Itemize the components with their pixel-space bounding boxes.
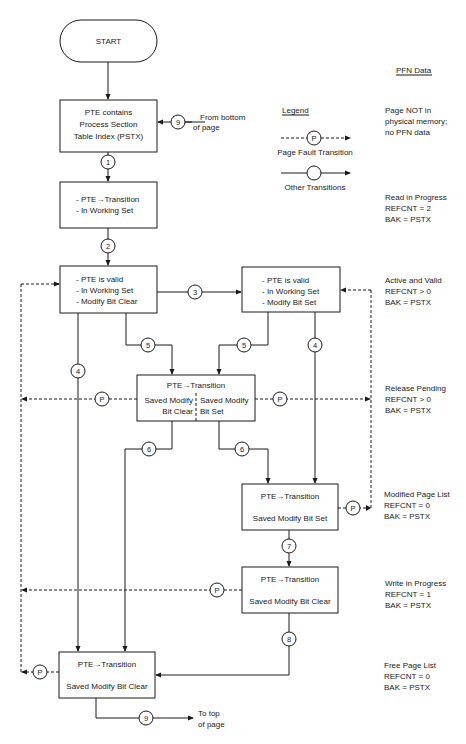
box-read-line: - In Working Set	[76, 206, 134, 215]
legend: Legend P Page Fault Transition Other Tra…	[277, 106, 353, 192]
pfn-state-modified-page-list: Modified Page List REFCNT = 0 BAK = PSTX	[384, 490, 451, 521]
pfn-state-line: Modified Page List	[384, 490, 451, 499]
pfn-state-line: no PFN data	[385, 128, 430, 137]
from-bottom-note: From bottom	[200, 113, 246, 122]
fault-connector-label: P	[277, 395, 282, 404]
start-terminal: START	[60, 20, 157, 62]
box-valid-modify-set: - PTE is valid - In Working Set - Modify…	[242, 267, 340, 312]
pfn-state-line: REFCNT = 0	[384, 672, 430, 681]
arrow-8	[156, 613, 289, 675]
box-write-line: PTE→Transition	[261, 575, 319, 584]
box-pstx: PTE contains Process Section Table Index…	[60, 100, 157, 152]
box-valid-clear-line: - Modify Bit Clear	[76, 297, 138, 306]
pfn-state-line: REFCNT = 1	[385, 590, 431, 599]
box-free-line: PTE→Transition	[78, 660, 136, 669]
box-valid-set-line: - PTE is valid	[262, 276, 309, 285]
pfn-state-line: BAK = PSTX	[385, 406, 432, 415]
connector-4-label: 4	[313, 341, 317, 350]
box-valid-set-line: - In Working Set	[262, 287, 320, 296]
pfn-state-read-in-progress: Read in Progress REFCNT = 2 BAK = PSTX	[385, 193, 447, 224]
pfn-state-write-in-progress: Write in Progress REFCNT = 1 BAK = PSTX	[385, 579, 446, 610]
connector-9-label: 9	[176, 118, 180, 127]
pfn-state-not-in-memory: Page NOT in physical memory; no PFN data	[385, 106, 447, 137]
pfn-state-line: Write in Progress	[385, 579, 446, 588]
connector-3-label: 3	[193, 288, 197, 297]
pfn-state-line: BAK = PSTX	[385, 298, 432, 307]
legend-page-fault-symbol: P	[311, 134, 316, 143]
pfn-state-line: Page NOT in	[385, 106, 431, 115]
pfn-state-line: BAK = PSTX	[384, 683, 431, 692]
box-write-line: Saved Modify Bit Clear	[249, 597, 331, 606]
from-bottom-note: of page	[193, 123, 220, 132]
to-top-note: of page	[198, 720, 225, 729]
box-free-page-list: PTE→Transition Saved Modify Bit Clear	[59, 652, 155, 698]
connector-6-label: 6	[147, 445, 151, 454]
box-modified-page-list: PTE→Transition Saved Modify Bit Set	[242, 484, 338, 530]
box-valid-modify-clear: - PTE is valid - In Working Set - Modify…	[60, 266, 157, 313]
pfn-state-line: REFCNT = 0	[384, 501, 430, 510]
connector-5-label: 5	[146, 341, 150, 350]
box-free-line: Saved Modify Bit Clear	[66, 682, 148, 691]
box-release-title: PTE→Transition	[167, 381, 225, 390]
box-valid-clear-line: - PTE is valid	[76, 275, 123, 284]
to-top-note: To top	[198, 709, 220, 718]
pfn-state-line: REFCNT = 2	[385, 204, 431, 213]
pfn-state-line: BAK = PSTX	[384, 512, 431, 521]
box-valid-set-line: - Modify Bit Set	[262, 298, 317, 307]
box-pstx-line: PTE contains	[85, 108, 133, 117]
box-pstx-line: Table Index (PSTX)	[74, 132, 144, 141]
legend-other-circle	[307, 166, 321, 180]
legend-title: Legend	[282, 106, 309, 115]
connector-4-label: 4	[76, 367, 80, 376]
pfn-state-release-pending: Release Pending REFCNT > 0 BAK = PSTX	[385, 384, 446, 415]
legend-page-fault-label: Page Fault Transition	[277, 148, 353, 157]
pfn-state-line: REFCNT > 0	[385, 287, 431, 296]
box-release-right: Saved Modify	[200, 396, 248, 405]
fault-connector-label: P	[350, 504, 355, 513]
box-pstx-line: Process Section	[80, 120, 138, 129]
pfn-state-line: Release Pending	[385, 384, 446, 393]
pfn-state-line: BAK = PSTX	[385, 601, 432, 610]
box-release-pending: PTE→Transition Saved Modify Bit Clear Sa…	[137, 375, 255, 421]
fault-connector-label: P	[214, 586, 219, 595]
box-read-in-progress: - PTE→Transition - In Working Set	[60, 182, 157, 228]
legend-other-label: Other Transitions	[285, 183, 346, 192]
box-modified-line: PTE→Transition	[261, 492, 319, 501]
pfn-state-active-valid: Active and Valid REFCNT > 0 BAK = PSTX	[385, 276, 442, 307]
fault-connector-label: P	[99, 395, 104, 404]
pfn-data-header: PFN Data	[396, 66, 432, 75]
pfn-state-line: BAK = PSTX	[385, 215, 432, 224]
connector-6-label: 6	[240, 445, 244, 454]
connector-5-label: 5	[242, 341, 246, 350]
pfn-state-line: Active and Valid	[385, 276, 442, 285]
pfn-state-line: Free Page List	[384, 661, 437, 670]
page-state-flowchart: START PTE contains Process Section Table…	[0, 0, 466, 744]
box-write-in-progress: PTE→Transition Saved Modify Bit Clear	[242, 567, 338, 613]
connector-7-label: 7	[287, 542, 291, 551]
start-label: START	[96, 37, 122, 46]
connector-8-label: 8	[287, 635, 291, 644]
box-release-left: Saved Modify	[145, 396, 193, 405]
pfn-state-line: REFCNT > 0	[385, 395, 431, 404]
connector-2-label: 2	[106, 242, 110, 251]
box-valid-clear-line: - In Working Set	[76, 286, 134, 295]
connector-9-label: 9	[144, 714, 148, 723]
pfn-state-line: Read in Progress	[385, 193, 447, 202]
pfn-state-free-page-list: Free Page List REFCNT = 0 BAK = PSTX	[384, 661, 437, 692]
box-release-left: Bit Clear	[162, 407, 193, 416]
box-release-right: Bit Set	[200, 407, 224, 416]
connector-1-label: 1	[106, 158, 110, 167]
box-read-line: - PTE→Transition	[76, 195, 139, 204]
fault-connector-label: P	[37, 668, 42, 677]
box-modified-line: Saved Modify Bit Set	[253, 514, 328, 523]
pfn-state-line: physical memory;	[385, 117, 447, 126]
